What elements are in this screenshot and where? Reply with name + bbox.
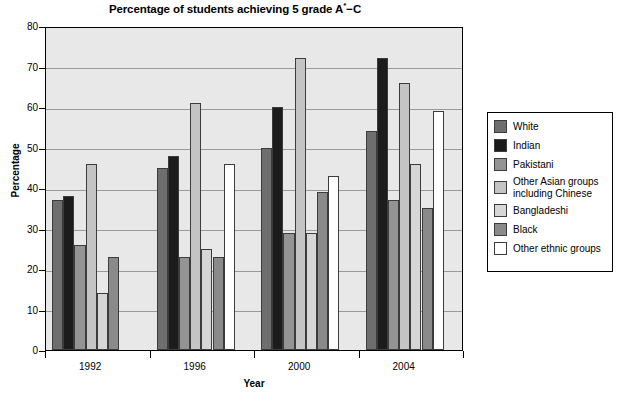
bar bbox=[108, 257, 119, 350]
legend-item[interactable]: Black bbox=[494, 221, 612, 238]
bar bbox=[295, 58, 306, 350]
bar bbox=[74, 245, 85, 350]
bar bbox=[261, 148, 272, 351]
y-axis-tick-label: 60 bbox=[6, 102, 38, 113]
bar bbox=[283, 233, 294, 350]
legend-swatch-icon bbox=[494, 139, 507, 152]
legend-item[interactable]: Other ethnic groups bbox=[494, 240, 612, 257]
plot-inner bbox=[46, 28, 462, 350]
y-axis-tick-mark bbox=[39, 189, 45, 190]
legend-item[interactable]: Other Asian groups including Chinese bbox=[494, 175, 612, 200]
bar bbox=[213, 257, 224, 350]
y-axis-tick-label: 0 bbox=[6, 345, 38, 356]
bar bbox=[224, 164, 235, 350]
bar bbox=[157, 168, 168, 350]
bar bbox=[399, 83, 410, 350]
y-axis-tick-mark bbox=[39, 270, 45, 271]
y-axis-tick-mark bbox=[39, 230, 45, 231]
x-axis-tick-label: 2004 bbox=[369, 361, 439, 372]
bar bbox=[168, 156, 179, 350]
bar bbox=[97, 293, 108, 350]
x-axis-tick-label: 2000 bbox=[264, 361, 334, 372]
bar bbox=[377, 58, 388, 350]
bar bbox=[306, 233, 317, 350]
y-axis-tick-label: 40 bbox=[6, 183, 38, 194]
legend-item-label: Other Asian groups including Chinese bbox=[513, 176, 599, 199]
y-axis-tick-label: 30 bbox=[6, 224, 38, 235]
y-axis-tick-mark bbox=[39, 27, 45, 28]
chart-title-text: Percentage of students achieving 5 grade… bbox=[109, 3, 343, 15]
legend-swatch-icon bbox=[494, 120, 507, 133]
legend-swatch-icon bbox=[494, 181, 507, 194]
bar bbox=[388, 200, 399, 350]
y-axis-tick-label: 70 bbox=[6, 62, 38, 73]
chart-title: Percentage of students achieving 5 grade… bbox=[0, 1, 470, 15]
legend-item-label: White bbox=[513, 121, 539, 133]
y-axis-tick-mark bbox=[39, 149, 45, 150]
x-axis-tick-mark bbox=[254, 351, 255, 358]
bar bbox=[52, 200, 63, 350]
bar bbox=[328, 176, 339, 350]
legend-item-label: Black bbox=[513, 224, 537, 236]
y-axis-tick-mark bbox=[39, 68, 45, 69]
x-axis-tick-label: 1992 bbox=[55, 361, 125, 372]
legend-item-label: Bangladeshi bbox=[513, 205, 568, 217]
bar bbox=[317, 192, 328, 350]
y-axis-tick-label: 10 bbox=[6, 305, 38, 316]
legend-item-label: Other ethnic groups bbox=[513, 243, 601, 255]
bar bbox=[201, 249, 212, 350]
bar bbox=[63, 196, 74, 350]
bar bbox=[190, 103, 201, 350]
legend-swatch-icon bbox=[494, 242, 507, 255]
chart-title-suffix: −C bbox=[346, 3, 361, 15]
legend-item[interactable]: Indian bbox=[494, 137, 612, 154]
plot-area bbox=[45, 27, 463, 351]
legend-swatch-icon bbox=[494, 223, 507, 236]
legend-item[interactable]: White bbox=[494, 118, 612, 135]
bar bbox=[410, 164, 421, 350]
x-axis-tick-mark bbox=[359, 351, 360, 358]
chart-legend: WhiteIndianPakistaniOther Asian groups i… bbox=[487, 112, 613, 272]
legend-swatch-icon bbox=[494, 204, 507, 217]
y-axis-tick-label: 50 bbox=[6, 143, 38, 154]
bar bbox=[179, 257, 190, 350]
x-axis-tick-mark bbox=[150, 351, 151, 358]
bar bbox=[86, 164, 97, 350]
x-axis-tick-mark bbox=[45, 351, 46, 358]
legend-swatch-icon bbox=[494, 158, 507, 171]
legend-item-label: Indian bbox=[513, 140, 540, 152]
y-axis-tick-mark bbox=[39, 311, 45, 312]
y-axis-label: Percentage bbox=[10, 126, 21, 216]
gridline bbox=[46, 68, 462, 69]
bar-chart: Percentage of students achieving 5 grade… bbox=[0, 0, 620, 402]
legend-item[interactable]: Bangladeshi bbox=[494, 202, 612, 219]
bar bbox=[272, 107, 283, 350]
y-axis-tick-label: 80 bbox=[6, 21, 38, 32]
x-axis-tick-mark bbox=[463, 351, 464, 358]
legend-item-label: Pakistani bbox=[513, 159, 554, 171]
y-axis-tick-mark bbox=[39, 108, 45, 109]
legend-item[interactable]: Pakistani bbox=[494, 156, 612, 173]
bar bbox=[366, 131, 377, 350]
bar bbox=[433, 111, 444, 350]
bar bbox=[422, 208, 433, 350]
x-axis-label: Year bbox=[45, 378, 463, 389]
x-axis-tick-label: 1996 bbox=[160, 361, 230, 372]
y-axis-tick-label: 20 bbox=[6, 264, 38, 275]
